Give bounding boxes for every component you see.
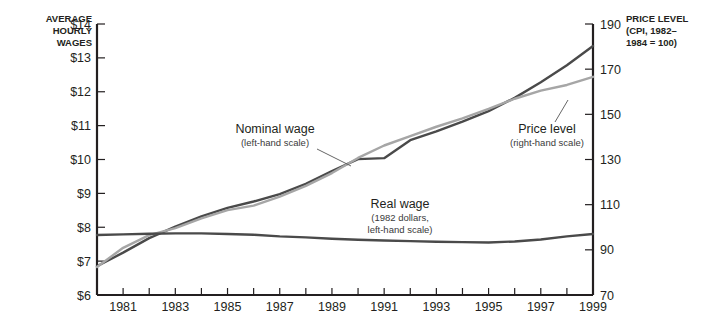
x-tick-label: 1995	[475, 300, 503, 314]
right-axis-title-line-1: PRICE LEVEL	[626, 13, 688, 24]
x-tick-label: 1989	[318, 300, 346, 314]
chart-figure: AVERAGE HOURLY WAGES PRICE LEVEL (CPI, 1…	[0, 0, 714, 323]
left-tick-label: $6	[77, 289, 91, 303]
x-tick-label: 1999	[579, 300, 607, 314]
left-tick-label: $7	[77, 255, 91, 269]
x-tick-label: 1983	[161, 300, 189, 314]
right-axis-title-line-2: (CPI, 1982–	[626, 25, 677, 36]
right-tick-label: 190	[600, 18, 621, 32]
annotation-real-wage-subtitle-1: (1982 dollars,	[371, 212, 429, 223]
left-tick-label: $8	[77, 221, 91, 235]
right-tick-label: 150	[600, 108, 621, 122]
annotation-nominal-wage-title: Nominal wage	[235, 122, 314, 136]
left-tick-label: $12	[70, 85, 91, 99]
wages-price-level-chart: AVERAGE HOURLY WAGES PRICE LEVEL (CPI, 1…	[0, 0, 714, 323]
annotation-real-wage-title: Real wage	[370, 197, 429, 211]
left-tick-label: $14	[70, 18, 91, 32]
x-tick-label: 1991	[370, 300, 398, 314]
annotation-price-level-subtitle: (right-hand scale)	[510, 137, 584, 148]
right-tick-label: 130	[600, 153, 621, 167]
left-tick-label: $13	[70, 51, 91, 65]
annotation-nominal-wage-subtitle: (left-hand scale)	[241, 137, 309, 148]
right-axis-title-line-3: 1984 = 100)	[626, 37, 677, 48]
left-axis-title-line-3: WAGES	[57, 37, 92, 48]
left-tick-label: $9	[77, 187, 91, 201]
left-tick-label: $10	[70, 153, 91, 167]
right-tick-label: 110	[600, 198, 620, 212]
x-tick-label: 1993	[422, 300, 450, 314]
annotation-real-wage-subtitle-2: left-hand scale)	[368, 224, 433, 235]
left-tick-label: $11	[71, 119, 91, 133]
x-tick-label: 1981	[109, 300, 137, 314]
annotation-price-level-title: Price level	[518, 122, 576, 136]
x-tick-label: 1985	[214, 300, 242, 314]
right-tick-label: 90	[600, 243, 614, 257]
right-tick-label: 170	[600, 63, 621, 77]
annotation-real-wage: Real wage (1982 dollars, left-hand scale…	[368, 197, 433, 235]
x-tick-label: 1987	[266, 300, 294, 314]
x-tick-label: 1997	[527, 300, 555, 314]
